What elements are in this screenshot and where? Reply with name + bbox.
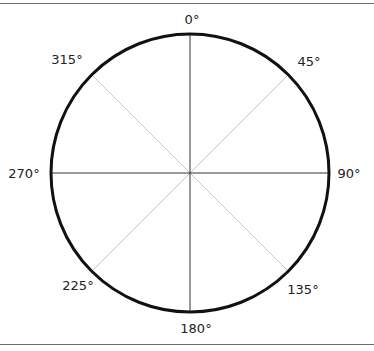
compass-diagram: 0° 45° 90° 135° 180° 225° 270° 315° [0, 0, 374, 351]
label-0: 0° [185, 12, 200, 27]
label-45: 45° [297, 54, 320, 69]
label-225: 225° [62, 278, 93, 293]
label-315: 315° [51, 52, 82, 67]
label-90: 90° [337, 166, 360, 181]
label-270: 270° [8, 166, 39, 181]
label-180: 180° [180, 321, 211, 336]
label-135: 135° [287, 282, 318, 297]
